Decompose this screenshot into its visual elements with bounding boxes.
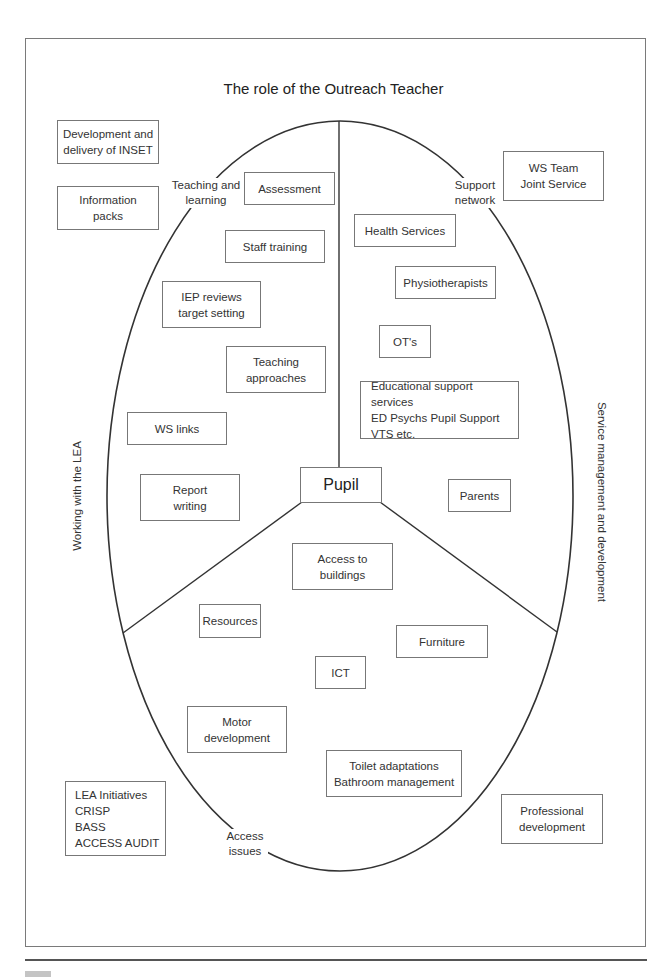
box-assessment: Assessment	[244, 172, 335, 205]
box-teaching-approaches: Teaching approaches	[226, 346, 326, 393]
box-furniture: Furniture	[396, 625, 488, 658]
box-ict: ICT	[315, 656, 366, 689]
box-staff-training: Staff training	[225, 230, 325, 263]
label-teaching-learning: Teaching and learning	[170, 178, 242, 208]
page-marker	[25, 971, 51, 977]
diagram-title: The role of the Outreach Teacher	[0, 80, 667, 97]
label-service-management: Service management and development	[596, 402, 608, 602]
box-ws-team: WS Team Joint Service	[503, 151, 604, 201]
box-toilet-adaptations: Toilet adaptations Bathroom management	[326, 750, 462, 797]
label-access-issues: Access issues	[222, 829, 268, 859]
box-information-packs: Information packs	[57, 186, 159, 230]
box-parents: Parents	[448, 479, 511, 512]
box-motor-development: Motor development	[187, 706, 287, 753]
footer-rule	[25, 959, 647, 961]
box-report-writing: Report writing	[140, 474, 240, 521]
label-working-with-lea: Working with the LEA	[71, 441, 83, 551]
box-lea-initiatives: LEA Initiatives CRISP BASS ACCESS AUDIT	[65, 781, 166, 856]
box-ws-links: WS links	[127, 412, 227, 445]
box-resources: Resources	[199, 604, 261, 638]
box-iep-reviews: IEP reviews target setting	[162, 281, 261, 328]
box-educational-support: Educational support services ED Psychs P…	[360, 381, 519, 439]
box-physiotherapists: Physiotherapists	[395, 266, 496, 299]
box-inset: Development and delivery of INSET	[57, 120, 159, 164]
label-support-network: Support network	[447, 178, 503, 208]
box-ots: OT's	[379, 325, 431, 358]
box-professional-development: Professional development	[501, 794, 603, 844]
box-pupil: Pupil	[300, 467, 382, 503]
box-access-to-buildings: Access to buildings	[292, 543, 393, 590]
divider-right	[380, 502, 557, 632]
box-health-services: Health Services	[354, 214, 456, 247]
